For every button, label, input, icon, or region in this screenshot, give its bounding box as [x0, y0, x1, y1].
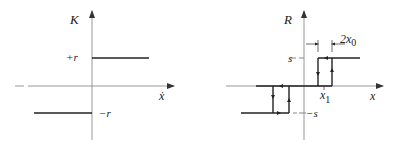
- left-plot: K ẋ +r −r: [15, 11, 174, 140]
- right-y-label: R: [283, 12, 292, 27]
- x1-label: x1: [319, 88, 330, 105]
- pos-r-label: +r: [66, 51, 78, 63]
- upper-hysteresis-loop: [290, 56, 360, 86]
- pos-s-label: s: [288, 52, 292, 64]
- right-x-label: x: [369, 89, 376, 103]
- neg-s-label: −s: [306, 107, 318, 119]
- right-plot: R x s −s x1 2x0: [226, 11, 383, 140]
- left-x-label: ẋ: [158, 89, 165, 103]
- neg-r-label: −r: [99, 107, 111, 119]
- diagram-canvas: K ẋ +r −r: [0, 0, 397, 148]
- 2x0-label: 2x0: [340, 32, 356, 48]
- left-y-label: K: [69, 12, 80, 27]
- lower-hysteresis-loop: [241, 84, 306, 115]
